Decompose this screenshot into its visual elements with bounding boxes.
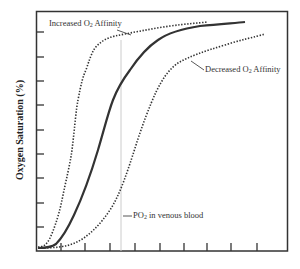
x-axis-ticks <box>61 243 257 251</box>
y-axis-label: Oxygen Saturation (%) <box>14 80 25 180</box>
annotation-decreased-affinity: Decreased O2 Affinity <box>205 64 281 74</box>
annotation-increased-affinity: Increased O2 Affinity <box>49 18 122 28</box>
leader-decreased <box>191 61 204 70</box>
annotation-venous-po2: PO2 in venous blood <box>133 210 203 220</box>
oxygen-dissociation-chart <box>0 0 300 269</box>
